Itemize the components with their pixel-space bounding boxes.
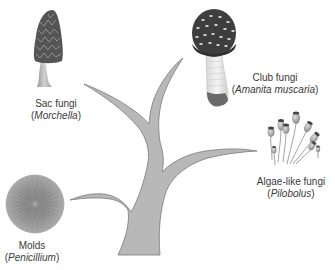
tree-diagram (0, 0, 335, 270)
morel-mushroom-icon (34, 10, 63, 87)
genus-name: Amanita muscaria (235, 84, 315, 95)
label-molds: Molds (Penicillium) (2, 240, 62, 264)
pilobolus-sporangia-icon (268, 111, 321, 165)
common-name: Algae-like fungi (246, 176, 335, 188)
penicillium-colony-icon (6, 175, 64, 233)
label-sac-fungi: Sac fungi (Morchella) (28, 98, 84, 122)
genus-name: Penicillium (8, 252, 56, 263)
label-club-fungi: Club fungi (Amanita muscaria) (218, 72, 332, 96)
common-name: Molds (2, 240, 62, 252)
label-algae-like-fungi: Algae-like fungi (Pilobolus) (246, 176, 335, 200)
common-name: Sac fungi (28, 98, 84, 110)
common-name: Club fungi (218, 72, 332, 84)
genus-name: Morchella (34, 110, 77, 121)
fungi-phylogeny-diagram: Sac fungi (Morchella) Club fungi (Amanit… (0, 0, 335, 270)
genus-name: Pilobolus (271, 188, 312, 199)
